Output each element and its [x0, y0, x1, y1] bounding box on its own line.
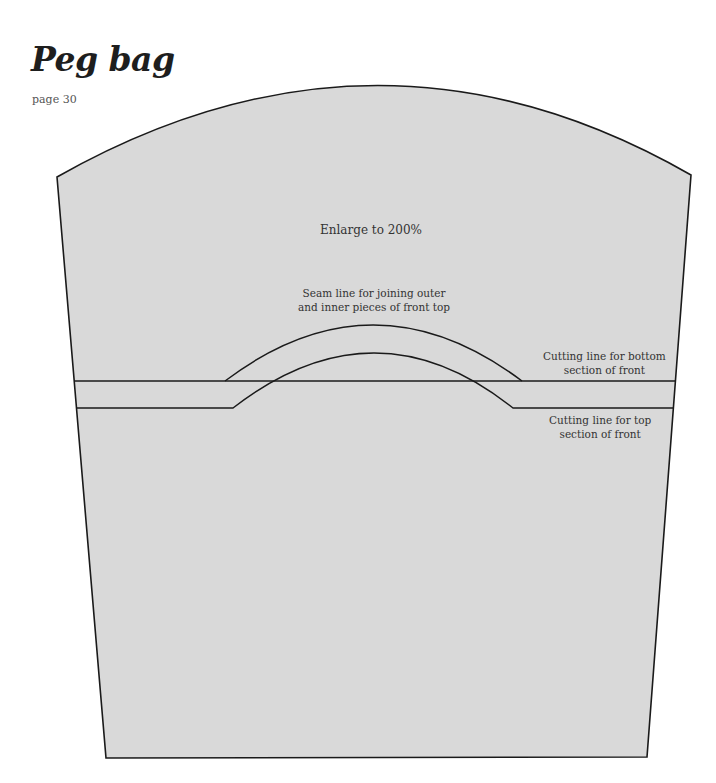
seam-label-line2: and inner pieces of front top [298, 300, 450, 314]
enlarge-instruction: Enlarge to 200% [320, 223, 422, 237]
seam-line-label: Seam line for joining outer and inner pi… [298, 286, 450, 314]
cutting-top-label: Cutting line for top section of front [549, 413, 651, 441]
cut-bottom-line1: Cutting line for bottom [543, 349, 666, 363]
pattern-piece [0, 0, 716, 783]
cut-top-line2: section of front [549, 427, 651, 441]
cut-top-line1: Cutting line for top [549, 413, 651, 427]
enlarge-text: Enlarge to 200% [320, 223, 422, 237]
seam-label-line1: Seam line for joining outer [298, 286, 450, 300]
cut-bottom-line2: section of front [543, 363, 666, 377]
cutting-bottom-label: Cutting line for bottom section of front [543, 349, 666, 377]
